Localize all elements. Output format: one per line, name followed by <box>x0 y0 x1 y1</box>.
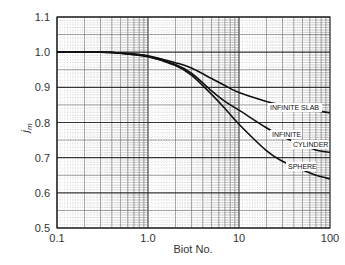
y-tick-label: 1.1 <box>35 11 50 23</box>
y-tick-label: 0.9 <box>35 81 50 93</box>
y-axis-label: jm <box>19 123 34 134</box>
chart: 0.50.60.70.80.91.01.1 0.11.010100 Biot N… <box>0 0 345 265</box>
y-tick-label: 0.7 <box>35 152 50 164</box>
y-tick-label: 0.5 <box>35 222 50 234</box>
svg-text:INFINITE: INFINITE <box>272 131 301 138</box>
curve-label-slab: INFINITE SLAB <box>268 103 322 112</box>
x-tick-label: 1.0 <box>140 232 155 244</box>
x-tick-label: 100 <box>321 232 339 244</box>
y-tick-label: 0.8 <box>35 117 50 129</box>
y-tick-label: 0.6 <box>35 187 50 199</box>
x-tick-label: 10 <box>233 232 245 244</box>
svg-text:jm: jm <box>19 123 34 134</box>
svg-text:INFINITE SLAB: INFINITE SLAB <box>270 104 319 111</box>
y-tick-label: 1.0 <box>35 46 50 58</box>
x-tick-label: 0.1 <box>49 232 64 244</box>
svg-text:CYLINDER: CYLINDER <box>293 141 328 148</box>
grid <box>57 17 330 228</box>
x-axis-label: Biot No. <box>173 243 212 255</box>
y-tick-labels: 0.50.60.70.80.91.01.1 <box>35 11 50 234</box>
svg-text:SPHERE: SPHERE <box>288 163 317 170</box>
curve-label-sphere: SPHERE <box>286 162 317 171</box>
y-axis-label-sub: m <box>25 123 34 130</box>
